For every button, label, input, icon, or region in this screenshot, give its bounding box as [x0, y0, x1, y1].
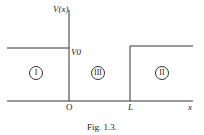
region-iii: III: [91, 66, 105, 80]
region-i: I: [29, 66, 43, 80]
l-label: L: [128, 103, 133, 112]
v0-label: V0: [71, 48, 81, 57]
y-axis-label: V(x): [53, 5, 69, 14]
origin-label: O: [66, 103, 73, 112]
x-axis-label: x: [188, 103, 192, 112]
region-ii: II: [155, 66, 169, 80]
figure-caption: Fig. 1.3.: [0, 122, 204, 132]
